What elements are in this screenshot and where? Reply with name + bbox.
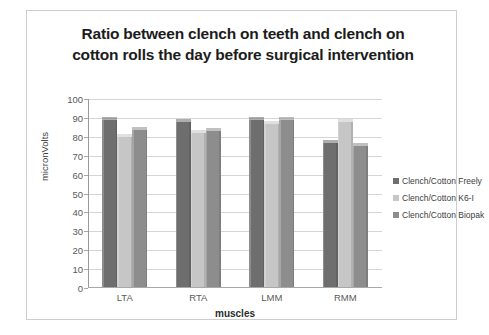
- bar-group-rmm: [323, 99, 368, 287]
- bar-group-lmm: [249, 99, 294, 287]
- y-axis-line: [88, 99, 89, 288]
- bar-highlight-edge: [249, 120, 251, 287]
- chart-title: Ratio between clench on teeth and clench…: [45, 23, 441, 65]
- bar-highlight-edge: [338, 122, 340, 287]
- bar-highlight-edge: [323, 143, 325, 287]
- bar-body: [102, 120, 117, 287]
- x-axis-tick-labels: LTARTALMMRMM: [88, 292, 382, 306]
- legend-label: Clench/Cotton Biopak: [402, 210, 484, 220]
- bar-highlight-edge: [206, 131, 208, 287]
- chart-title-line-1: Ratio between clench on teeth and clench…: [45, 23, 441, 44]
- bar-lmm-series-3[interactable]: [279, 117, 294, 287]
- bar-highlight-edge: [102, 120, 104, 287]
- legend-item-1[interactable]: Clench/Cotton Freely: [393, 174, 489, 188]
- y-axis-tick-label: 100: [55, 94, 83, 105]
- bar-shadow-edge: [293, 120, 295, 287]
- y-axis-tick: [84, 156, 88, 157]
- bar-rmm-series-3[interactable]: [353, 143, 368, 287]
- y-axis-tick: [84, 231, 88, 232]
- bar-highlight-edge: [176, 122, 178, 287]
- y-axis-tick-labels: 0102030405060708090100: [53, 99, 83, 288]
- legend-label: Clench/Cotton K6-I: [402, 193, 474, 203]
- bar-highlight-edge: [132, 130, 134, 287]
- bar-body: [206, 131, 221, 287]
- bar-body: [117, 137, 132, 287]
- bar-body: [338, 122, 353, 287]
- y-axis-tick-label: 70: [55, 150, 83, 161]
- y-axis-tick-label: 10: [55, 264, 83, 275]
- bar-body: [323, 143, 338, 287]
- bar-body: [264, 124, 279, 287]
- bar-body: [279, 120, 294, 287]
- y-axis-tick: [84, 175, 88, 176]
- y-axis-tick: [84, 250, 88, 251]
- bar-highlight-edge: [264, 124, 266, 287]
- legend-label: Clench/Cotton Freely: [402, 176, 482, 186]
- bar-shadow-edge: [219, 131, 221, 287]
- x-axis-line: [88, 287, 382, 288]
- legend-swatch-icon: [393, 178, 399, 184]
- bar-shadow-edge: [366, 146, 368, 287]
- legend-swatch-icon: [393, 195, 399, 201]
- bar-body: [191, 133, 206, 287]
- bar-body: [249, 120, 264, 287]
- x-axis-label-lta: LTA: [95, 292, 155, 303]
- bar-lta-series-3[interactable]: [132, 127, 147, 287]
- y-axis-tick: [84, 194, 88, 195]
- y-axis-tick-label: 20: [55, 245, 83, 256]
- y-axis-tick: [84, 118, 88, 119]
- bar-body: [132, 130, 147, 287]
- y-axis-tick-label: 80: [55, 131, 83, 142]
- y-axis-tick: [84, 99, 88, 100]
- plot-area: [88, 99, 382, 288]
- chart-title-line-2: cotton rolls the day before surgical int…: [45, 44, 441, 65]
- chart-frame: Ratio between clench on teeth and clench…: [26, 10, 457, 320]
- x-axis-label-rmm: RMM: [315, 292, 375, 303]
- y-axis-tick: [84, 269, 88, 270]
- bar-rmm-series-1[interactable]: [323, 140, 338, 287]
- bar-highlight-edge: [191, 133, 193, 287]
- y-axis-tick: [84, 288, 88, 289]
- bar-rta-series-2[interactable]: [191, 130, 206, 287]
- bar-body: [176, 122, 191, 287]
- bar-group-rta: [176, 99, 221, 287]
- y-axis-tick-label: 60: [55, 169, 83, 180]
- y-axis-title: micronVolts: [39, 112, 50, 202]
- bar-group-lta: [102, 99, 147, 287]
- y-axis-tick-label: 90: [55, 112, 83, 123]
- y-axis-tick-label: 50: [55, 188, 83, 199]
- x-axis-label-rta: RTA: [168, 292, 228, 303]
- bar-body: [353, 146, 368, 287]
- legend-item-3[interactable]: Clench/Cotton Biopak: [393, 208, 489, 222]
- bar-lta-series-2[interactable]: [117, 134, 132, 287]
- bar-highlight-edge: [279, 120, 281, 287]
- bar-lmm-series-1[interactable]: [249, 117, 264, 287]
- bar-lta-series-1[interactable]: [102, 117, 117, 287]
- y-axis-tick: [84, 137, 88, 138]
- legend-swatch-icon: [393, 212, 399, 218]
- y-axis-tick-label: 40: [55, 207, 83, 218]
- bar-lmm-series-2[interactable]: [264, 121, 279, 287]
- bar-highlight-edge: [117, 137, 119, 287]
- bar-rta-series-1[interactable]: [176, 119, 191, 287]
- y-axis-tick: [84, 212, 88, 213]
- bar-highlight-edge: [353, 146, 355, 287]
- x-axis-label-lmm: LMM: [242, 292, 302, 303]
- bar-rta-series-3[interactable]: [206, 128, 221, 287]
- bar-shadow-edge: [146, 130, 148, 287]
- x-axis-title: muscles: [88, 308, 382, 319]
- y-axis-tick-label: 30: [55, 226, 83, 237]
- bar-rmm-series-2[interactable]: [338, 119, 353, 287]
- chart-legend: Clench/Cotton FreelyClench/Cotton K6-ICl…: [393, 174, 489, 225]
- legend-item-2[interactable]: Clench/Cotton K6-I: [393, 191, 489, 205]
- y-axis-tick-label: 0: [55, 283, 83, 294]
